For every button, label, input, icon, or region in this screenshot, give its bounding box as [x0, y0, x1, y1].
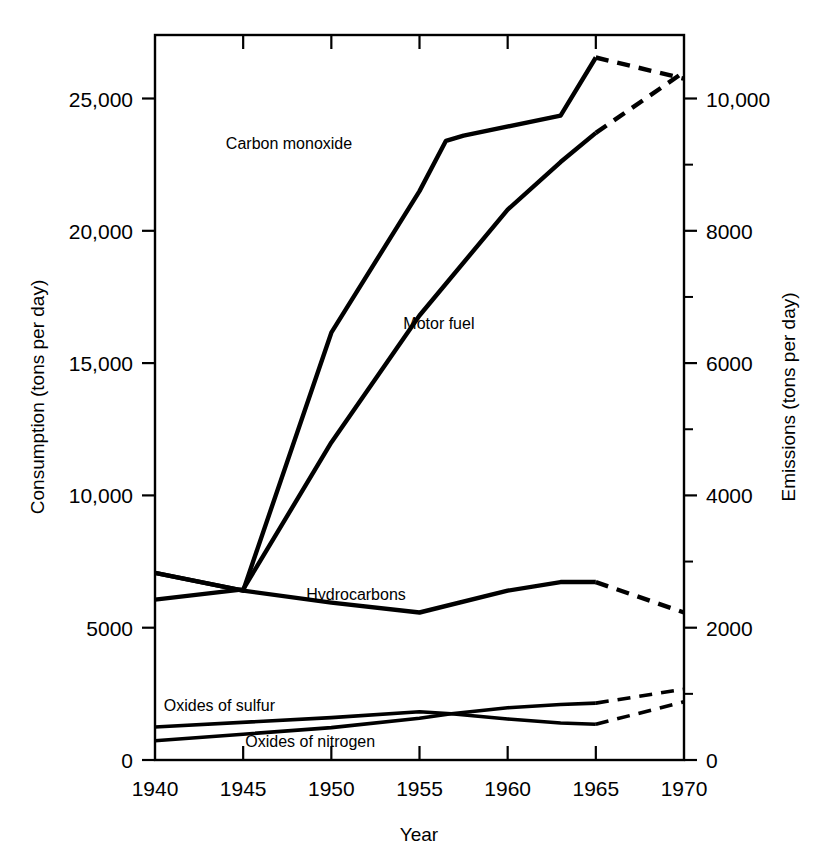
x-tick-label: 1955 [396, 777, 443, 800]
series-label-oxides-of-sulfur: Oxides of sulfur [164, 697, 276, 714]
x-tick-label: 1940 [132, 777, 179, 800]
y-tick-label-left: 10,000 [69, 484, 133, 507]
x-axis-title: Year [400, 824, 439, 845]
series-line-projected-oxides-of-sulfur [596, 702, 684, 724]
y-axis-left-tick-labels: 0500010,00015,00020,00025,000 [69, 88, 133, 772]
series-label-hydrocarbons: Hydrocarbons [306, 586, 406, 603]
y-tick-label-right: 2000 [706, 617, 753, 640]
y-axis-right-tick-labels: 0200040006000800010,000 [706, 88, 770, 772]
y-tick-label-right: 10,000 [706, 88, 770, 111]
series-line-projected-hydrocarbons [596, 582, 684, 612]
series-label-motor-fuel: Motor fuel [403, 315, 474, 332]
y-tick-label-left: 20,000 [69, 220, 133, 243]
y-tick-label-right: 8000 [706, 220, 753, 243]
y-axis-right-ticks [684, 99, 697, 760]
y-axis-left-title: Consumption (tons per day) [27, 280, 48, 514]
y-tick-label-left: 15,000 [69, 352, 133, 375]
y-axis-right-title: Emissions (tons per day) [778, 292, 799, 501]
series-lines [155, 57, 684, 740]
y-tick-label-left: 5000 [86, 617, 133, 640]
y-tick-label-left: 0 [121, 749, 133, 772]
series-line-projected-carbon-monoxide [596, 57, 684, 78]
x-tick-label: 1970 [661, 777, 708, 800]
x-tick-label: 1950 [308, 777, 355, 800]
x-axis-tick-labels: 1940194519501955196019651970 [132, 777, 708, 800]
x-tick-label: 1960 [484, 777, 531, 800]
series-label-carbon-monoxide: Carbon monoxide [226, 135, 352, 152]
series-annotations: Carbon monoxideMotor fuelHydrocarbonsOxi… [164, 135, 475, 751]
x-tick-label: 1945 [220, 777, 267, 800]
series-line-carbon-monoxide [155, 57, 596, 590]
y-tick-label-right: 0 [706, 749, 718, 772]
series-line-projected-motor-fuel [596, 72, 684, 133]
chart-figure: 0500010,00015,00020,00025,000 0200040006… [0, 0, 833, 863]
series-line-motor-fuel [155, 133, 596, 600]
y-tick-label-right: 6000 [706, 352, 753, 375]
series-label-oxides-of-nitrogen: Oxides of nitrogen [245, 733, 375, 750]
y-tick-label-left: 25,000 [69, 88, 133, 111]
y-axis-left-ticks [142, 99, 155, 760]
y-tick-label-right: 4000 [706, 484, 753, 507]
chart-canvas: 0500010,00015,00020,00025,000 0200040006… [0, 0, 833, 863]
series-line-projected-oxides-of-nitrogen [596, 689, 684, 703]
x-tick-label: 1965 [572, 777, 619, 800]
